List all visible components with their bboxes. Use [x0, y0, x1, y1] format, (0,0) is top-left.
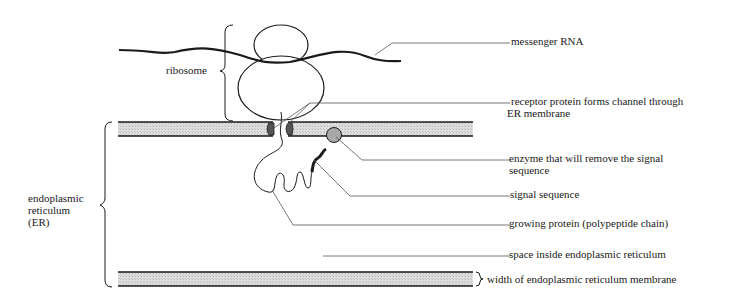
er-membrane-top [118, 122, 473, 136]
label-growing-protein: growing protein (polypeptide chain) [509, 217, 668, 229]
leader-growing-protein [272, 190, 510, 225]
er-brace [100, 122, 112, 287]
label-messenger-rna: messenger RNA [511, 35, 583, 47]
membrane-width-brace [476, 272, 483, 286]
leader-enzyme [336, 137, 510, 160]
label-ribosome: ribosome [166, 64, 207, 76]
er-translocation-diagram: ribosome endoplasmic reticulum (ER) mess… [0, 0, 745, 305]
er-membrane-bottom [118, 272, 473, 286]
label-signal-sequence: signal sequence [510, 188, 579, 200]
ribosome-brace [220, 25, 233, 121]
leader-messenger-rna [375, 43, 510, 55]
label-er-line1: endoplasmic [28, 192, 84, 204]
label-enzyme-line2: sequence [509, 164, 549, 176]
leader-signal-sequence [314, 160, 510, 196]
ribosome [238, 25, 324, 120]
label-space-inside: space inside endoplasmic reticulum [509, 248, 666, 260]
label-er-line3: (ER) [28, 216, 49, 228]
label-receptor-protein-line1: receptor protein forms channel through [511, 95, 683, 107]
receptor-protein-channel [267, 123, 293, 135]
label-receptor-protein-line2: ER membrane [507, 107, 570, 119]
label-membrane-width: width of endoplasmic reticulum membrane [487, 273, 676, 285]
label-er-line2: reticulum [28, 204, 70, 216]
label-enzyme-line1: enzyme that will remove the signal [509, 152, 663, 164]
